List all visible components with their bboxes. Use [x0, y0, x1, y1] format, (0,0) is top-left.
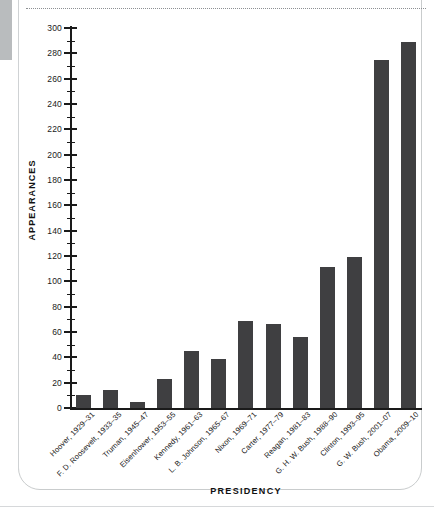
bar-slot [124, 28, 151, 408]
y-tick-label-220: 220 [26, 124, 62, 134]
y-tick-label-40: 40 [26, 352, 62, 362]
bar[interactable] [157, 379, 172, 408]
bar-slot [341, 28, 368, 408]
bar[interactable] [103, 390, 118, 408]
y-tick-label-0: 0 [26, 403, 62, 413]
bar[interactable] [184, 351, 199, 408]
y-tick-label-160: 160 [26, 200, 62, 210]
y-axis-tick-labels: 0204060801001201401601802002202402602803… [22, 0, 62, 515]
y-tick-label-200: 200 [26, 150, 62, 160]
y-tick-label-300: 300 [26, 23, 62, 33]
bar[interactable] [320, 267, 335, 408]
bar-slot [232, 28, 259, 408]
y-tick-label-140: 140 [26, 226, 62, 236]
bar[interactable] [238, 321, 253, 408]
bar-slot [314, 28, 341, 408]
y-tick-label-80: 80 [26, 302, 62, 312]
bar-slot [205, 28, 232, 408]
y-tick-label-60: 60 [26, 327, 62, 337]
bar-slot [97, 28, 124, 408]
y-tick-label-180: 180 [26, 175, 62, 185]
bar[interactable] [211, 359, 226, 408]
bar[interactable] [293, 337, 308, 408]
y-tick-label-120: 120 [26, 251, 62, 261]
bar-slot [151, 28, 178, 408]
bar[interactable] [347, 257, 362, 408]
x-tick-label: Kennedy, 1961–63 [152, 410, 204, 462]
bar[interactable] [266, 324, 281, 408]
y-tick-label-280: 280 [26, 48, 62, 58]
bar-slot [178, 28, 205, 408]
x-axis-title: PRESIDENCY [70, 486, 422, 496]
y-tick-label-240: 240 [26, 99, 62, 109]
bar-chart: APPEARANCES 0204060801001201401601802002… [0, 0, 434, 515]
bar[interactable] [76, 395, 91, 408]
bar-series [70, 28, 422, 408]
bar-slot [368, 28, 395, 408]
bar-slot [395, 28, 422, 408]
bar[interactable] [130, 402, 145, 408]
bar-slot [287, 28, 314, 408]
y-tick-label-100: 100 [26, 276, 62, 286]
bar[interactable] [401, 42, 416, 408]
x-axis-tick-labels: Hoover, 1929–31F. D. Roosevelt, 1933–35T… [70, 410, 430, 490]
bar-slot [260, 28, 287, 408]
y-tick-label-260: 260 [26, 74, 62, 84]
y-tick-label-20: 20 [26, 378, 62, 388]
bar-slot [70, 28, 97, 408]
bar[interactable] [374, 60, 389, 408]
